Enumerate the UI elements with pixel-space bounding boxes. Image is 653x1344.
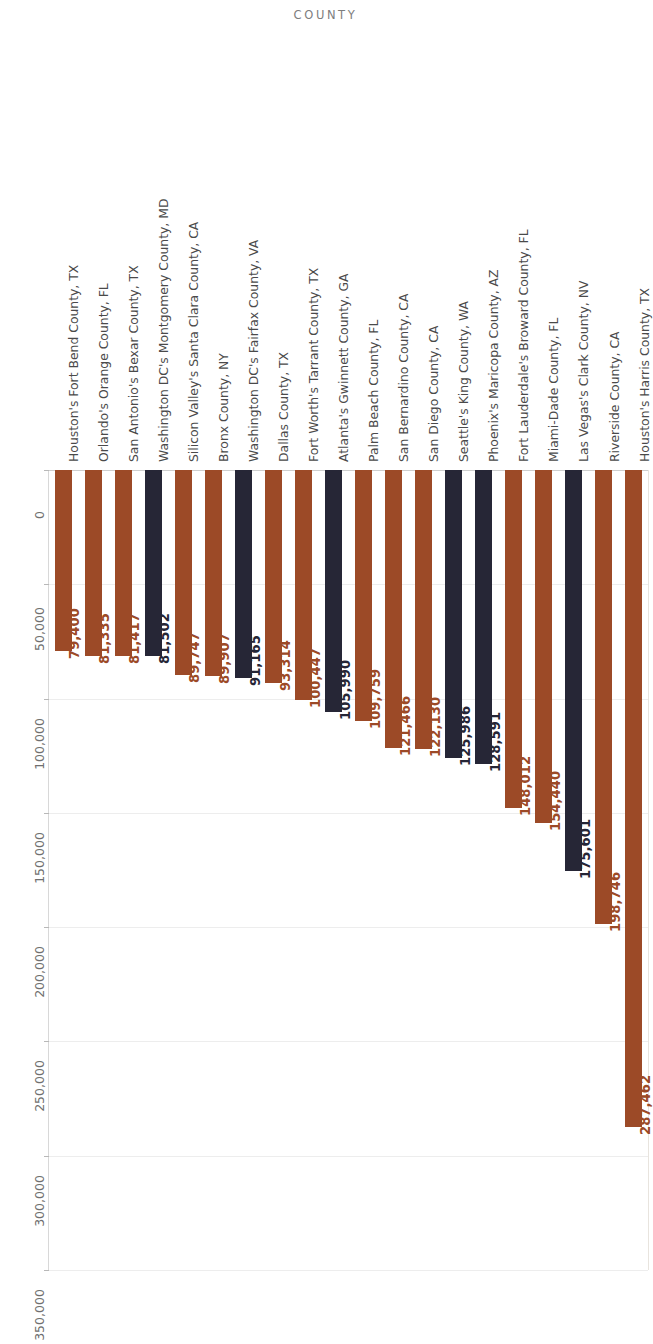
gridline [49,584,648,585]
bar-value-label: 81,502 [158,613,171,664]
bar-value-label: 81,335 [98,613,111,664]
axis-tick-label: 50,000 [32,584,47,674]
bar-value-label: 175,601 [579,819,592,879]
category-label: Houston's Fort Bend County, TX [68,265,80,462]
category-label: Fort Lauderdale's Broward County, FL [518,229,530,462]
gridline [49,1270,648,1271]
category-label: San Antonio's Bexar County, TX [128,265,140,462]
category-label: Dallas County, TX [278,352,290,462]
bar[interactable] [625,470,642,1127]
bar-value-label: 122,130 [429,697,442,757]
axis-tick-label: 100,000 [32,699,47,789]
category-label: Houston's Harris County, TX [639,288,651,462]
category-label: Silicon Valley's Santa Clara County, CA [188,222,200,462]
gridline [49,927,648,928]
axis-tick-label: 0 [32,470,47,560]
axis-tick-label: 250,000 [32,1041,47,1131]
plot-area: 050,000100,000150,000200,000250,000300,0… [48,470,649,1270]
category-label: Washington DC's Fairfax County, VA [248,240,260,462]
category-label: Las Vegas's Clark County, NV [578,281,590,462]
bar-value-label: 154,440 [549,771,562,831]
bar-value-label: 100,447 [309,648,322,708]
category-label: Riverside County, CA [609,331,621,462]
axis-tick-label: 350,000 [32,1270,47,1344]
category-label: Phoenix's Maricopa County, AZ [488,269,500,462]
category-label: Bronx County, NY [218,353,230,462]
category-label: Atlanta's Gwinnett County, GA [338,273,350,462]
category-label: Washington DC's Montgomery County, MD [158,199,170,462]
bar-value-label: 148,012 [519,756,532,816]
category-label: Fort Worth's Tarrant County, TX [308,268,320,462]
bar-value-label: 81,417 [128,613,141,664]
bar-value-label: 125,986 [459,706,472,766]
category-label: Palm Beach County, FL [368,320,380,462]
bar-value-label: 93,314 [279,640,292,691]
bar-value-label: 198,746 [609,872,622,932]
axis-tick-label: 150,000 [32,813,47,903]
page-title: COUNTY [0,8,651,22]
bar-value-label: 109,759 [369,669,382,729]
category-label: San Bernardino County, CA [398,294,410,462]
bar-value-label: 105,990 [339,660,352,720]
axis-tick-label: 300,000 [32,1156,47,1246]
bar-value-label: 287,462 [639,1075,652,1135]
axis-tick-label: 200,000 [32,927,47,1017]
bar-value-label: 89,907 [218,633,231,684]
category-label: San Diego County, CA [428,326,440,462]
bar-value-label: 121,466 [399,696,412,756]
bar-value-label: 79,400 [68,609,81,660]
bar[interactable] [595,470,612,924]
category-label: Miami-Dade County, FL [548,318,560,462]
gridline [49,1041,648,1042]
gridline [49,1156,648,1157]
bar-value-label: 91,165 [249,635,262,686]
bar[interactable] [565,470,582,871]
category-label: Orlando's Orange County, FL [98,283,110,462]
category-label: Seattle's King County, WA [458,301,470,462]
bar-value-label: 128,591 [489,712,502,772]
gridline [49,470,648,471]
bar-value-label: 89,747 [188,632,201,683]
